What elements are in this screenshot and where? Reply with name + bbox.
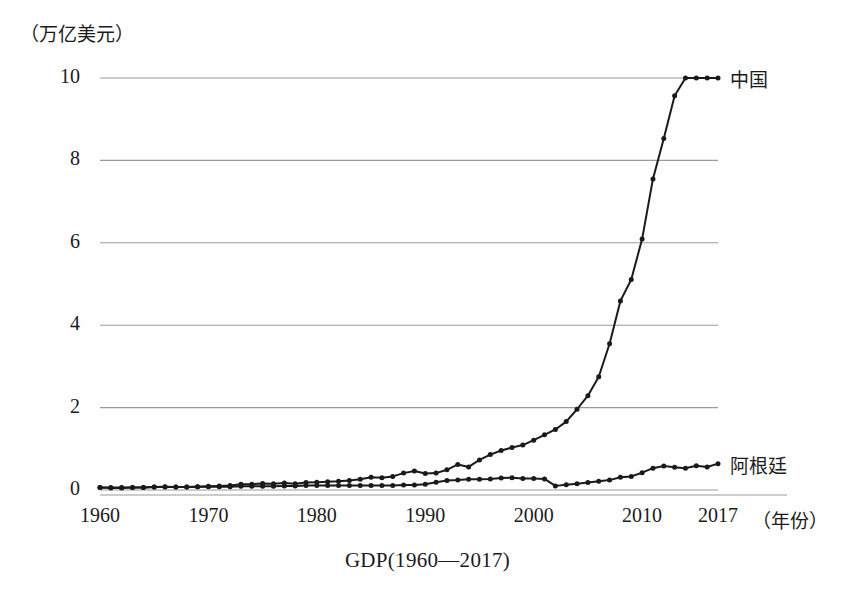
x-tick-label-1960: 1960 bbox=[60, 504, 140, 527]
data-point bbox=[390, 474, 395, 479]
series-line-1 bbox=[100, 464, 718, 488]
data-point bbox=[423, 471, 428, 476]
data-point bbox=[672, 465, 677, 470]
data-point bbox=[596, 479, 601, 484]
x-tick-label-1970: 1970 bbox=[168, 504, 248, 527]
data-point bbox=[379, 483, 384, 488]
data-point bbox=[542, 432, 547, 437]
data-point bbox=[434, 480, 439, 485]
data-point bbox=[141, 485, 146, 490]
data-point bbox=[488, 476, 493, 481]
data-point bbox=[661, 136, 666, 141]
x-tick-label-2010: 2010 bbox=[602, 504, 682, 527]
data-point bbox=[618, 475, 623, 480]
series-label-0: 中国 bbox=[730, 65, 768, 92]
data-point bbox=[650, 466, 655, 471]
data-point bbox=[694, 76, 699, 81]
data-point bbox=[347, 483, 352, 488]
x-tick-label-1990: 1990 bbox=[385, 504, 465, 527]
data-point bbox=[304, 483, 309, 488]
data-point bbox=[716, 76, 721, 81]
x-tick-label-1980: 1980 bbox=[277, 504, 357, 527]
data-point bbox=[564, 419, 569, 424]
x-tick-label-2000: 2000 bbox=[494, 504, 574, 527]
data-point bbox=[98, 485, 103, 490]
y-tick-label-2: 2 bbox=[40, 395, 80, 418]
data-point bbox=[206, 484, 211, 489]
data-point bbox=[510, 445, 515, 450]
data-point bbox=[358, 483, 363, 488]
data-point bbox=[520, 476, 525, 481]
data-point bbox=[553, 483, 558, 488]
data-point bbox=[444, 467, 449, 472]
data-point bbox=[607, 341, 612, 346]
data-point bbox=[488, 452, 493, 457]
data-point bbox=[217, 484, 222, 489]
data-point bbox=[520, 443, 525, 448]
data-point bbox=[607, 478, 612, 483]
data-point bbox=[163, 485, 168, 490]
data-point bbox=[596, 374, 601, 379]
data-point bbox=[401, 483, 406, 488]
data-point bbox=[119, 485, 124, 490]
y-tick-label-4: 4 bbox=[40, 312, 80, 335]
data-point bbox=[412, 483, 417, 488]
data-point bbox=[390, 483, 395, 488]
data-point bbox=[314, 483, 319, 488]
data-point bbox=[575, 407, 580, 412]
data-point bbox=[455, 462, 460, 467]
data-point bbox=[401, 471, 406, 476]
data-point bbox=[358, 477, 363, 482]
data-point bbox=[640, 470, 645, 475]
data-point bbox=[575, 481, 580, 486]
y-tick-label-0: 0 bbox=[40, 477, 80, 500]
data-point bbox=[510, 475, 515, 480]
data-point bbox=[499, 476, 504, 481]
data-point bbox=[130, 485, 135, 490]
data-point bbox=[184, 485, 189, 490]
data-point bbox=[564, 482, 569, 487]
data-point bbox=[683, 466, 688, 471]
data-point bbox=[260, 484, 265, 489]
data-point bbox=[228, 484, 233, 489]
data-point bbox=[531, 476, 536, 481]
gdp-line-chart: （万亿美元） 0246810 1960197019801990200020102… bbox=[0, 0, 855, 604]
data-point bbox=[282, 483, 287, 488]
data-point bbox=[553, 427, 558, 432]
data-point bbox=[271, 484, 276, 489]
data-point bbox=[629, 474, 634, 479]
y-tick-label-10: 10 bbox=[40, 65, 80, 88]
data-point bbox=[336, 483, 341, 488]
data-point bbox=[423, 482, 428, 487]
data-point bbox=[477, 457, 482, 462]
data-point bbox=[705, 464, 710, 469]
data-point bbox=[412, 469, 417, 474]
data-point bbox=[661, 464, 666, 469]
series-label-1: 阿根廷 bbox=[730, 451, 787, 478]
data-point bbox=[173, 485, 178, 490]
y-tick-label-6: 6 bbox=[40, 230, 80, 253]
data-point bbox=[379, 475, 384, 480]
data-point bbox=[531, 438, 536, 443]
data-point bbox=[640, 237, 645, 242]
y-tick-label-8: 8 bbox=[40, 147, 80, 170]
data-point bbox=[694, 463, 699, 468]
data-point bbox=[455, 478, 460, 483]
gridlines-group bbox=[100, 78, 718, 490]
data-point bbox=[293, 483, 298, 488]
series-line-0 bbox=[100, 78, 718, 488]
data-point bbox=[347, 478, 352, 483]
data-point bbox=[629, 277, 634, 282]
data-point bbox=[618, 298, 623, 303]
data-point bbox=[716, 461, 721, 466]
data-point bbox=[195, 484, 200, 489]
data-point bbox=[683, 76, 688, 81]
data-point bbox=[542, 476, 547, 481]
chart-caption: GDP(1960—2017) bbox=[0, 548, 855, 573]
data-point bbox=[108, 485, 113, 490]
data-point bbox=[466, 464, 471, 469]
data-point bbox=[477, 477, 482, 482]
data-point bbox=[249, 484, 254, 489]
data-point bbox=[585, 393, 590, 398]
data-point bbox=[466, 477, 471, 482]
